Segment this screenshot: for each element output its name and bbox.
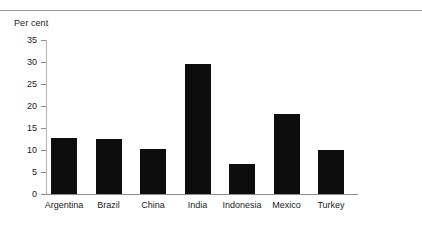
y-axis-tick-label: 5 bbox=[10, 168, 37, 177]
y-axis-line bbox=[46, 40, 47, 195]
y-axis-tick bbox=[41, 128, 46, 129]
y-axis-tick bbox=[41, 40, 46, 41]
y-axis-tick-label-text: 35 bbox=[13, 36, 37, 45]
y-axis-tick-label: 25 bbox=[10, 80, 37, 89]
bar bbox=[140, 149, 166, 194]
bar bbox=[51, 138, 77, 194]
y-axis-tick bbox=[41, 172, 46, 173]
y-axis-tick-label: 20 bbox=[10, 102, 37, 111]
y-axis-tick-label: 10 bbox=[10, 146, 37, 155]
y-axis-tick-label: 35 bbox=[10, 36, 37, 45]
x-axis-category-label: Turkey bbox=[291, 200, 371, 211]
bar bbox=[318, 150, 344, 194]
chart-figure: Per cent 05101520253035 ArgentinaBrazilC… bbox=[0, 0, 422, 231]
bar bbox=[185, 64, 211, 194]
y-axis-tick bbox=[41, 150, 46, 151]
y-axis-tick-label-text: 25 bbox=[13, 80, 37, 89]
y-axis-tick-label-text: 20 bbox=[13, 102, 37, 111]
bar bbox=[229, 164, 255, 194]
y-axis-tick bbox=[41, 194, 46, 195]
y-axis-tick bbox=[41, 106, 46, 107]
y-axis-tick-label-text: 15 bbox=[13, 124, 37, 133]
y-axis-tick-label: 0 bbox=[10, 190, 37, 199]
bar bbox=[274, 114, 300, 194]
x-axis-line bbox=[46, 194, 358, 195]
plot-area: 05101520253035 ArgentinaBrazilChinaIndia… bbox=[0, 0, 422, 231]
y-axis-tick-label-text: 5 bbox=[13, 168, 37, 177]
y-axis-tick-label: 30 bbox=[10, 58, 37, 67]
y-axis-tick bbox=[41, 62, 46, 63]
bar bbox=[96, 139, 122, 194]
y-axis-tick bbox=[41, 84, 46, 85]
y-axis-tick-label-text: 30 bbox=[13, 58, 37, 67]
y-axis-tick-label-text: 0 bbox=[13, 190, 37, 199]
y-axis-tick-label: 15 bbox=[10, 124, 37, 133]
y-axis-tick-label-text: 10 bbox=[13, 146, 37, 155]
